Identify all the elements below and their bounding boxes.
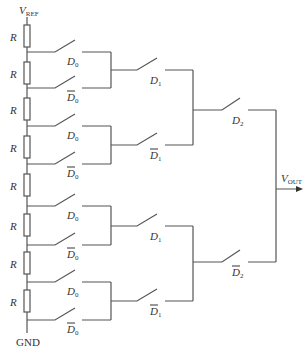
level1-labels: D1 D1 D1 D1 [149,74,162,319]
switch-d0-1 [27,40,111,52]
vout-label: VOUT [281,172,303,186]
switch-d0-4 [27,270,111,282]
svg-text:R: R [9,296,17,308]
resistor-5 [24,174,30,196]
svg-text:D0: D0 [66,167,79,181]
svg-text:D2: D2 [231,266,244,280]
svg-text:D0: D0 [66,323,79,337]
gnd-label: GND [16,336,40,348]
dac-circuit-diagram: VREF GND R R R R R R R R [0,0,308,353]
svg-text:D0: D0 [66,55,79,69]
resistor-1 [24,25,30,47]
svg-text:D1: D1 [149,230,162,244]
resistor-2 [24,62,30,84]
resistor-4 [24,136,30,158]
resistor-7 [24,252,30,274]
svg-text:D0: D0 [66,285,79,299]
svg-text:D1: D1 [149,305,162,319]
svg-text:R: R [9,31,17,43]
resistor-8 [24,290,30,312]
svg-text:D2: D2 [231,114,244,128]
svg-text:D0: D0 [66,91,79,105]
svg-text:D0: D0 [66,129,79,143]
resistor-6 [24,214,30,236]
svg-text:R: R [9,220,17,232]
svg-text:D1: D1 [149,149,162,163]
switch-d0-3 [27,194,111,206]
level0-switch-group [27,40,193,320]
output-arrow-icon [296,186,303,192]
switch-d0bar-1 [27,76,111,88]
svg-text:D0: D0 [66,209,79,223]
switch-d0bar-3 [27,233,111,245]
svg-text:R: R [9,104,17,116]
switch-d0bar-2 [27,152,111,164]
level2-switch-group [276,110,303,262]
switch-d0bar-4 [27,308,111,320]
svg-text:R: R [9,258,17,270]
vref-label: VREF [19,4,39,18]
resistor-3 [24,98,30,120]
resistor-labels: R R R R R R R R [9,31,17,308]
svg-text:R: R [9,142,17,154]
svg-text:R: R [9,180,17,192]
switch-d0-2 [27,114,111,126]
svg-text:D0: D0 [66,248,79,262]
svg-text:D1: D1 [149,74,162,88]
svg-text:R: R [9,68,17,80]
